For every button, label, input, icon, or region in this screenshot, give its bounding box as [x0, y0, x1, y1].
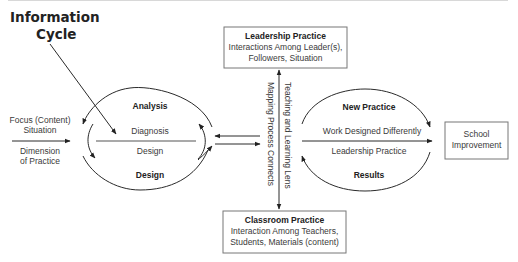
work-designed-label: Work Designed Differently — [323, 126, 422, 136]
classroom-practice-line1: Interaction Among Teachers, — [231, 226, 339, 236]
left-cycle-inner-left-arrow — [88, 124, 95, 158]
information-cycle-diagram: Information Cycle Focus (Content) Situat… — [0, 0, 518, 262]
leadership-practice-inner-label: Leadership Practice — [331, 146, 406, 156]
design-inner-label: Design — [137, 146, 164, 156]
leadership-practice-line2: Followers, Situation — [248, 53, 322, 63]
classroom-practice-title: Classroom Practice — [245, 215, 325, 225]
situation-label: Situation — [23, 125, 56, 135]
leadership-practice-title: Leadership Practice — [245, 31, 326, 41]
analysis-label: Analysis — [133, 101, 168, 111]
diagram-title-line1: Information — [10, 9, 100, 25]
mapping-process-label: Mapping Process Connects — [266, 82, 276, 186]
new-practice-label: New Practice — [343, 102, 396, 112]
left-cycle-lower-right-arrow — [198, 146, 212, 160]
of-practice-label: of Practice — [20, 156, 60, 166]
diagram-title-line2: Cycle — [36, 26, 77, 42]
focus-content-label: Focus (Content) — [10, 115, 71, 125]
results-label: Results — [354, 170, 385, 180]
school-label: School — [464, 129, 490, 139]
classroom-practice-line2: Students, Materials (content) — [230, 237, 339, 247]
improvement-label: Improvement — [452, 140, 502, 150]
leadership-practice-line1: Interactions Among Leader(s), — [229, 42, 343, 52]
diagnosis-label: Diagnosis — [131, 126, 168, 136]
teaching-learning-lens-label: Teaching and Learning Lens — [283, 82, 293, 189]
design-bottom-label: Design — [136, 170, 164, 180]
dimension-label: Dimension — [20, 146, 60, 156]
